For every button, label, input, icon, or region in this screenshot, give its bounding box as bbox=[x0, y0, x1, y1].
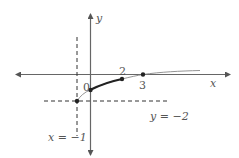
tick-label-3: 3 bbox=[139, 79, 146, 92]
vertical-asymptote-label: x = −1 bbox=[48, 131, 87, 144]
highlighted-curve-segment bbox=[90, 79, 122, 90]
y-axis-label: y bbox=[95, 12, 103, 25]
function-graph: y x 0 2 3 y = −2 x = −1 bbox=[0, 0, 239, 158]
start-point bbox=[75, 99, 79, 103]
x-axis-label: x bbox=[210, 77, 217, 90]
horizontal-asymptote-label: y = −2 bbox=[149, 110, 189, 123]
origin-label: 0 bbox=[83, 81, 90, 94]
x-intercept-point bbox=[141, 72, 145, 76]
tick-label-2: 2 bbox=[119, 65, 126, 78]
